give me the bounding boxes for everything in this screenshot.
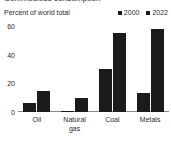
bar-group (94, 26, 132, 112)
x-tick-label: Coal (94, 115, 132, 133)
y-tick-label: 40 (7, 51, 15, 58)
chart-subtitle: Percent of world total (4, 9, 70, 17)
y-tick-label: 0 (11, 109, 15, 116)
legend-swatch-2022 (146, 11, 150, 15)
legend-label-2022: 2022 (152, 9, 168, 17)
bar-2022[interactable] (75, 98, 88, 112)
legend-item-2000[interactable]: 2000 (118, 9, 140, 17)
bar-2022[interactable] (37, 91, 50, 113)
y-tick-label: 20 (7, 80, 15, 87)
bar-2000[interactable] (23, 103, 36, 112)
bar-2000[interactable] (99, 69, 112, 112)
legend-label-2000: 2000 (124, 9, 140, 17)
x-tick-label: Oil (18, 115, 56, 133)
chart-legend: 2000 2022 (118, 9, 168, 17)
x-tick-label: Natural gas (56, 115, 94, 133)
bar-groups (18, 26, 169, 112)
chart-container: Commodities consumption Percent of world… (0, 0, 171, 141)
bar-group (131, 26, 169, 112)
y-tick-label: 60 (7, 23, 15, 30)
bar-group (18, 26, 56, 112)
x-tick-label: Metals (131, 115, 169, 133)
chart-title: Commodities consumption (4, 0, 101, 3)
bar-group (56, 26, 94, 112)
plot-area: 0204060 (18, 26, 169, 112)
bar-2022[interactable] (113, 33, 126, 112)
legend-swatch-2000 (118, 11, 122, 15)
bar-2022[interactable] (151, 29, 164, 112)
x-axis-labels: OilNatural gasCoalMetals (18, 115, 169, 133)
legend-item-2022[interactable]: 2022 (146, 9, 168, 17)
bar-2000[interactable] (61, 111, 74, 112)
bar-2000[interactable] (137, 93, 150, 112)
